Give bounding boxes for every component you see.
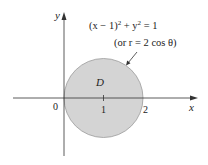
equation-polar: (or r = 2 cos θ) xyxy=(114,37,177,49)
equation-lhs: (x − 1) xyxy=(89,20,118,32)
equation-rhs: = 1 xyxy=(141,20,157,31)
origin-label: 0 xyxy=(53,101,58,112)
x-tick-label-1: 1 xyxy=(101,104,106,115)
equation-mid: + y xyxy=(121,20,138,31)
x-axis-arrow-icon xyxy=(190,96,198,101)
leader-line xyxy=(128,52,137,63)
y-axis-label: y xyxy=(54,9,60,21)
equation-cartesian: (x − 1)2 + y2 = 1 xyxy=(89,19,158,32)
y-axis-arrow-icon xyxy=(62,12,67,20)
x-axis-label: x xyxy=(188,101,194,113)
x-tick-label-2: 2 xyxy=(143,104,148,115)
region-label: D xyxy=(95,76,104,88)
polar-region-diagram: y x 0 1 2 D (x − 1)2 + y2 = 1 (or r = 2 … xyxy=(0,0,208,165)
